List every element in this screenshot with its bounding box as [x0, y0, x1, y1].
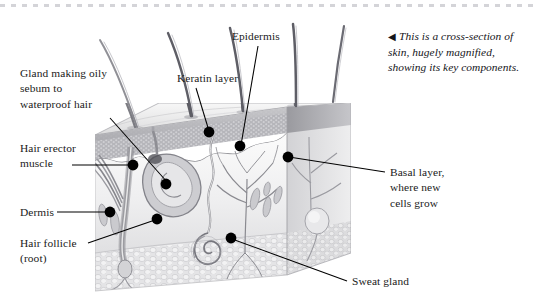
label-dermis: Dermis — [20, 205, 140, 220]
label-sweat-gland: Sweat gland — [352, 274, 472, 289]
figure-caption: ◀This is a cross-section of skin, hugely… — [388, 29, 520, 76]
top-dotted-rule — [0, 4, 533, 7]
label-hair-erector: Hair erector muscle — [20, 141, 140, 172]
skin-side-face — [287, 103, 351, 275]
figure-page: Gland making oily sebum to waterproof ha… — [0, 0, 533, 304]
caption-text: This is a cross-section of skin, hugely … — [388, 30, 519, 73]
label-hair-follicle: Hair follicle (root) — [20, 236, 140, 267]
label-epidermis: Epidermis — [232, 29, 342, 44]
caption-arrow-icon: ◀ — [388, 31, 396, 42]
label-gland-sebum: Gland making oily sebum to waterproof ha… — [20, 66, 150, 112]
label-keratin-layer: Keratin layer — [177, 71, 287, 86]
label-basal-layer: Basal layer, where new cells grow — [390, 165, 520, 211]
